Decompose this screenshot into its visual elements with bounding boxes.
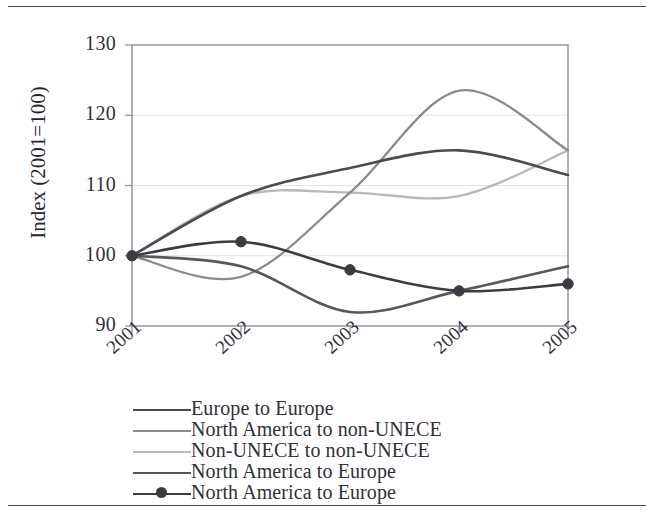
data-point-marker (345, 265, 355, 275)
chart-legend: Europe to EuropeNorth America to non-UNE… (133, 398, 553, 503)
series-line (132, 150, 568, 255)
legend-line-swatch (133, 461, 191, 482)
y-axis-tick-label: 90 (64, 313, 116, 336)
legend-item[interactable]: Non-UNECE to non-UNECE (133, 440, 553, 461)
plot-area: Index (2001=100) 13012011010090200120022… (0, 30, 654, 340)
legend-item-label: North America to non-UNECE (191, 419, 442, 440)
y-axis-tick-label: 110 (64, 173, 116, 196)
legend-item-label: North America to Europe (191, 461, 396, 482)
legend-item[interactable]: North America to non-UNECE (133, 419, 553, 440)
legend-line-swatch (133, 440, 191, 461)
legend-item-label: North America to Europe (191, 482, 396, 503)
legend-line-swatch (133, 398, 191, 419)
data-point-marker (236, 237, 246, 247)
bottom-horizontal-rule (8, 505, 646, 506)
data-point-marker (127, 251, 137, 261)
gridlines (132, 115, 568, 256)
legend-line-swatch (133, 482, 191, 503)
legend-item[interactable]: Europe to Europe (133, 398, 553, 419)
y-axis-tick-label: 100 (64, 243, 116, 266)
legend-item-label: Europe to Europe (191, 398, 334, 419)
legend-item-label: Non-UNECE to non-UNECE (191, 440, 430, 461)
data-point-marker (563, 279, 573, 289)
figure-container: Index (2001=100) 13012011010090200120022… (0, 0, 654, 522)
series-line (127, 237, 573, 297)
data-point-marker (454, 286, 464, 296)
y-axis-tick-label: 120 (64, 102, 116, 125)
legend-item[interactable]: North America to Europe (133, 482, 553, 503)
top-horizontal-rule (8, 6, 646, 7)
y-axis-title: Index (2001=100) (26, 63, 51, 263)
legend-line-swatch (133, 419, 191, 440)
series-line (132, 150, 568, 255)
y-axis-tick-label: 130 (64, 32, 116, 55)
legend-marker-dot (156, 487, 167, 498)
series-line (132, 90, 568, 279)
legend-item[interactable]: North America to Europe (133, 461, 553, 482)
